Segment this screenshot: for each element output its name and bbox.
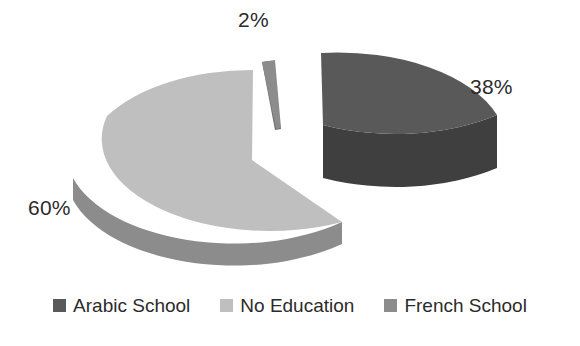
legend-label-french-school: French School — [404, 296, 527, 315]
pie-slice-no-education — [73, 70, 342, 266]
pie-slice-no-education-top — [102, 70, 342, 231]
legend-swatch-icon-arabic-school — [53, 299, 66, 312]
pie-slice-arabic-school — [321, 53, 497, 187]
pie-chart-graphic — [0, 0, 580, 290]
legend-swatch-icon-no-education — [220, 299, 233, 312]
pie-chart: 2% 38% 60% Arabic School No Education Fr… — [0, 0, 580, 346]
pie-slice-french-school — [262, 60, 281, 130]
legend-item-french-school: French School — [384, 296, 527, 315]
data-label-arabic-school: 38% — [470, 75, 513, 99]
pie-slice-french-school-top — [262, 60, 281, 129]
legend-label-arabic-school: Arabic School — [73, 296, 190, 315]
legend-label-no-education: No Education — [240, 296, 354, 315]
chart-legend: Arabic School No Education French School — [0, 288, 580, 322]
legend-item-arabic-school: Arabic School — [53, 296, 190, 315]
legend-item-no-education: No Education — [220, 296, 354, 315]
data-label-no-education: 60% — [28, 196, 71, 220]
legend-swatch-icon-french-school — [384, 299, 397, 312]
data-label-french-school: 2% — [238, 8, 269, 32]
